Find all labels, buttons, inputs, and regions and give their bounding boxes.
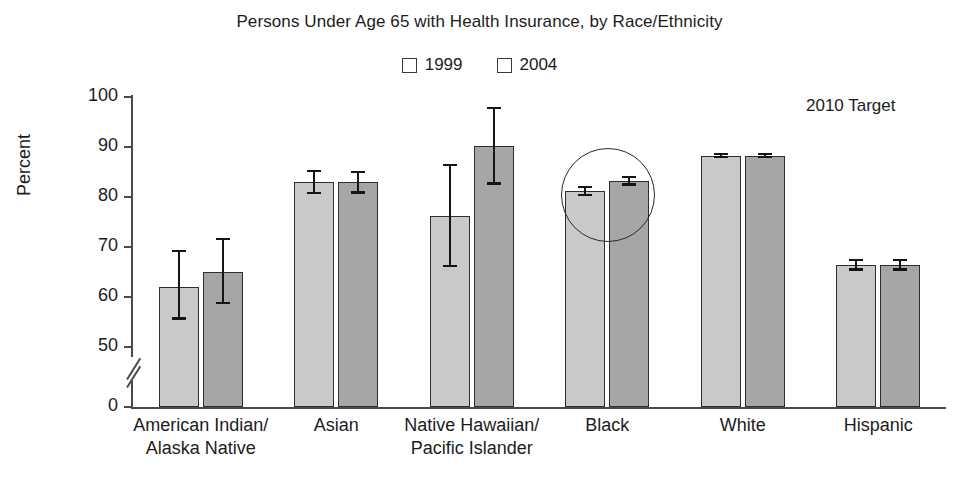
- x-axis-line: [131, 407, 946, 409]
- y-axis-tick: [124, 406, 132, 408]
- y-axis-break-icon: [122, 360, 144, 386]
- x-axis-category-label: White: [669, 414, 817, 437]
- bar-1999-group-5: [701, 156, 741, 408]
- plot-area: Percent 10090807060500American Indian/ A…: [0, 0, 959, 485]
- bar-2004-group-6: [880, 265, 920, 407]
- y-axis-tick-label: 100: [40, 85, 118, 106]
- y-axis-title: Percent: [14, 134, 35, 196]
- y-axis-tick-label: 50: [40, 335, 118, 356]
- chart-figure: Persons Under Age 65 with Health Insuran…: [0, 0, 959, 485]
- bar-2004-group-5: [745, 156, 785, 408]
- bar-1999-group-2: [294, 182, 334, 407]
- y-axis-tick: [124, 146, 132, 148]
- y-axis-tick-label: 70: [40, 235, 118, 256]
- bar-2004-group-2: [338, 182, 378, 407]
- y-axis-tick-label: 90: [40, 135, 118, 156]
- x-axis-category-label: Hispanic: [805, 414, 953, 437]
- x-axis-category-label: American Indian/ Alaska Native: [127, 414, 275, 460]
- y-axis-tick-label: 80: [40, 185, 118, 206]
- x-axis-category-label: Asian: [263, 414, 411, 437]
- bar-1999-group-6: [836, 265, 876, 407]
- y-axis-tick: [124, 246, 132, 248]
- y-axis-tick: [124, 196, 132, 198]
- y-axis-tick: [124, 346, 132, 348]
- highlight-circle-annotation: [561, 148, 655, 242]
- y-axis-tick: [124, 96, 132, 98]
- y-axis-tick: [124, 296, 132, 298]
- target-year-annotation: 2010 Target: [806, 96, 895, 116]
- y-axis-line-upper: [131, 95, 133, 357]
- y-axis-tick-label: 60: [40, 285, 118, 306]
- x-axis-category-label: Native Hawaiian/ Pacific Islander: [398, 414, 546, 460]
- bar-2004-group-3: [474, 146, 514, 407]
- x-axis-category-label: Black: [534, 414, 682, 437]
- y-axis-tick-label: 0: [40, 395, 118, 416]
